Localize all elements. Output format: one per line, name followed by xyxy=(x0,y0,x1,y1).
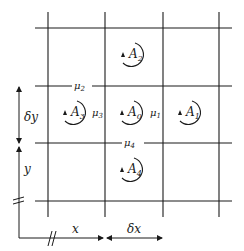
edge-label-mu3: μ3 xyxy=(92,107,104,120)
arrowhead-icon xyxy=(63,110,67,115)
y-label: y xyxy=(23,162,31,176)
cell-label-a1: A1 xyxy=(185,105,200,121)
cell-label-a4: A4 xyxy=(127,162,142,178)
arrowhead-icon xyxy=(120,167,124,172)
cell-label-a3: A3 xyxy=(70,105,85,121)
arrowhead-icon xyxy=(121,52,125,57)
cell-label-a0: A0 xyxy=(127,105,142,121)
cell-label-a2: A2 xyxy=(128,47,143,63)
arrowhead-icon xyxy=(178,110,182,115)
vorticity-grid-diagram: A2 A3 A0 A1 A4 μ2 μ3 μ1 μ4 y δy x δx xyxy=(0,0,244,251)
arrowhead-icon xyxy=(120,110,124,115)
edge-label-mu2: μ2 xyxy=(74,80,86,93)
edge-label-mu4: μ4 xyxy=(124,137,135,150)
dy-label: δy xyxy=(24,110,38,124)
dx-label: δx xyxy=(127,222,141,236)
edge-label-mu1: μ1 xyxy=(150,107,161,120)
x-label: x xyxy=(72,222,79,236)
